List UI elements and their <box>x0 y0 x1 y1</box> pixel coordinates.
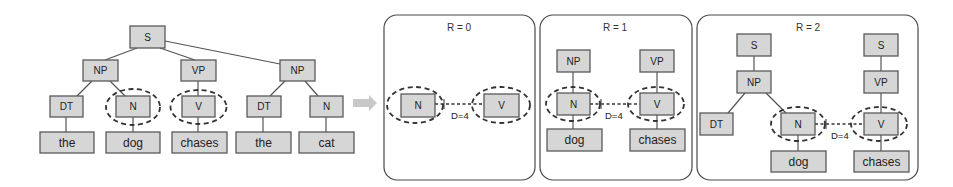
word-label: chases <box>862 155 900 169</box>
node-n: N <box>557 93 590 115</box>
node-label: S <box>751 40 758 51</box>
word-dog: dog <box>106 132 160 153</box>
node-label: V <box>195 101 202 112</box>
node-label: N <box>570 99 577 110</box>
node-np-object: NP <box>280 60 315 81</box>
node-label: S <box>144 32 151 43</box>
node-label: DT <box>60 101 73 112</box>
node-label: VP <box>874 77 888 88</box>
node-vp: VP <box>640 50 674 72</box>
node-n: N <box>401 94 435 117</box>
node-label: N <box>414 100 421 111</box>
node-label: V <box>498 100 505 111</box>
word-label: chases <box>180 136 218 150</box>
node-s: S <box>130 26 165 48</box>
node-label: VP <box>650 56 664 67</box>
node-v: V <box>182 96 215 117</box>
word-label: the <box>255 136 272 150</box>
node-dt-object: DT <box>247 96 281 117</box>
node-label: N <box>794 119 801 130</box>
edge-s-np1 <box>105 48 137 60</box>
edge-np2-dt <box>270 81 285 96</box>
node-label: N <box>323 101 330 112</box>
word-label: the <box>59 136 76 150</box>
word-label: chases <box>638 133 676 147</box>
node-label: NP <box>94 65 108 76</box>
edge-np1-n <box>110 81 125 96</box>
word-dog: dog <box>771 151 826 172</box>
word-label: dog <box>123 136 143 150</box>
node-label: NP <box>747 77 761 88</box>
word-label: cat <box>318 136 335 150</box>
word-label: dog <box>788 155 808 169</box>
node-label: NP <box>291 65 305 76</box>
panel-r0: R = 0 D=4 N V <box>384 15 535 180</box>
node-n: N <box>781 113 815 135</box>
node-label: S <box>878 40 885 51</box>
node-label: DT <box>710 119 723 130</box>
node-label: VP <box>192 65 206 76</box>
edge-np2-n <box>305 81 318 96</box>
node-label: NP <box>567 56 581 67</box>
edge-s-vp <box>160 48 195 60</box>
edge-np1-dt <box>77 81 92 96</box>
word-chases: chases <box>630 129 685 151</box>
tree-context-diagram: S NP VP NP DT N V DT <box>0 0 953 187</box>
transition-arrow-icon <box>353 95 377 111</box>
node-label: V <box>878 119 885 130</box>
distance-label: D=4 <box>605 110 623 121</box>
word-the-2: the <box>236 132 291 153</box>
word-cat: cat <box>299 132 354 153</box>
word-chases: chases <box>172 132 227 153</box>
panel-title: R = 1 <box>603 22 628 33</box>
word-dog: dog <box>547 129 602 151</box>
node-label: DT <box>257 101 270 112</box>
panel-r1: R = 1 D=4 NP VP N V dog chases <box>540 15 692 180</box>
node-label: N <box>129 101 136 112</box>
panel-title: R = 0 <box>447 22 472 33</box>
distance-label: D=4 <box>451 110 469 121</box>
node-vp: VP <box>864 71 898 93</box>
word-chases: chases <box>854 151 909 172</box>
node-np: NP <box>737 71 771 93</box>
node-n-subject: N <box>116 96 150 117</box>
node-vp: VP <box>181 60 216 81</box>
node-s-right: S <box>864 34 898 56</box>
panel-title: R = 2 <box>796 22 821 33</box>
node-v: V <box>484 94 519 117</box>
word-label: dog <box>564 133 584 147</box>
node-np: NP <box>557 50 590 72</box>
node-np-subject: NP <box>83 60 118 81</box>
distance-label: D=4 <box>831 130 849 141</box>
word-the: the <box>40 132 94 153</box>
node-label: V <box>654 99 661 110</box>
node-v: V <box>864 113 898 135</box>
node-n-object: N <box>310 96 343 117</box>
node-s-left: S <box>737 34 771 56</box>
node-dt: DT <box>700 113 733 135</box>
panel-r2: R = 2 D=4 S NP DT N dog <box>697 15 918 180</box>
node-v: V <box>640 93 674 115</box>
node-dt-subject: DT <box>50 96 83 117</box>
full-parse-tree: S NP VP NP DT N V DT <box>40 26 354 153</box>
